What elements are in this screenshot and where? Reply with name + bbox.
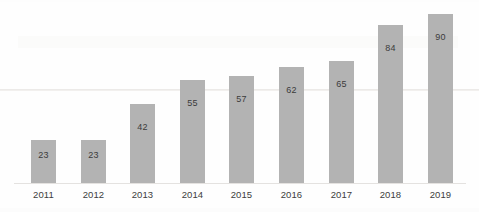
bar-group: 55: [180, 0, 205, 183]
bar: [31, 140, 56, 183]
bar-value-label: 23: [31, 150, 56, 160]
bar-group: 84: [378, 0, 403, 183]
bar-group: 90: [428, 0, 453, 183]
bar: [229, 76, 254, 183]
bar: [130, 104, 155, 183]
bar-group: 23: [81, 0, 106, 183]
x-tick-label: 2011: [22, 189, 66, 200]
scan-artifact-bottom-edge: [0, 208, 479, 212]
bar-group: 42: [130, 0, 155, 183]
x-axis-baseline: [14, 183, 466, 184]
x-tick-label: 2014: [171, 189, 215, 200]
bar-value-label: 62: [279, 85, 304, 95]
bar: [81, 140, 106, 183]
bar-chart: 232342555762658490 201120122013201420152…: [0, 0, 479, 212]
x-tick-label: 2018: [369, 189, 413, 200]
bar-group: 57: [229, 0, 254, 183]
x-tick-label: 2013: [121, 189, 165, 200]
bar-value-label: 42: [130, 122, 155, 132]
x-tick-label: 2015: [220, 189, 264, 200]
x-tick-label: 2019: [419, 189, 463, 200]
bar-value-label: 55: [180, 98, 205, 108]
x-tick-label: 2017: [320, 189, 364, 200]
x-tick-label: 2012: [72, 189, 116, 200]
bar-value-label: 57: [229, 94, 254, 104]
bar-value-label: 90: [428, 32, 453, 42]
bar-value-label: 65: [329, 79, 354, 89]
bar-group: 23: [31, 0, 56, 183]
bar-value-label: 84: [378, 43, 403, 53]
bar: [180, 80, 205, 183]
bar-group: 65: [329, 0, 354, 183]
x-tick-label: 2016: [270, 189, 314, 200]
bar-group: 62: [279, 0, 304, 183]
bar-value-label: 23: [81, 150, 106, 160]
